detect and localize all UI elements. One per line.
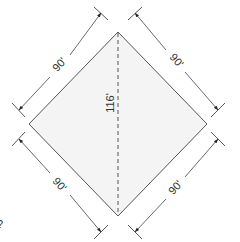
label-bottom-left: 90' <box>51 175 70 194</box>
stray-question-mark: ? <box>0 218 3 230</box>
label-top-left: 90' <box>50 55 69 74</box>
label-bottom-right: 90' <box>166 178 185 197</box>
label-top-right: 90' <box>168 51 187 70</box>
label-diagonal: 116' <box>104 93 116 113</box>
baseball-diamond-diagram: 90' 90' 90' 90' 116' ? <box>0 0 240 242</box>
